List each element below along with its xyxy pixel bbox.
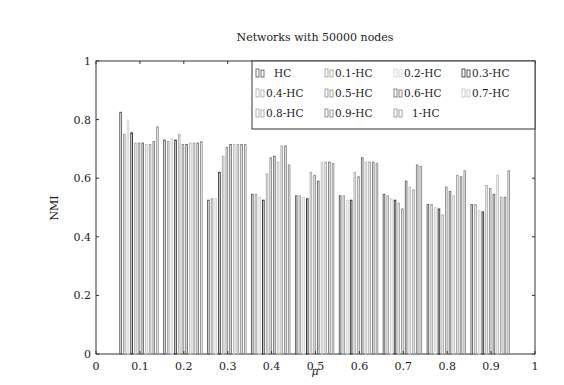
- bar: [303, 197, 305, 354]
- legend-swatch: [325, 89, 328, 97]
- bar: [123, 134, 125, 354]
- bar: [222, 156, 224, 354]
- bar: [241, 145, 243, 354]
- bar: [482, 212, 484, 354]
- legend-swatch: [325, 69, 328, 77]
- bar: [497, 175, 499, 354]
- bar: [266, 174, 268, 354]
- bar: [318, 181, 320, 354]
- bar: [434, 208, 436, 355]
- legend-label: 0.5-HC: [335, 87, 372, 99]
- bar: [153, 142, 155, 354]
- bar: [270, 158, 272, 354]
- bar: [244, 145, 246, 354]
- legend: HC0.1-HC0.2-HC0.3-HC0.4-HC0.5-HC0.6-HC0.…: [252, 61, 535, 129]
- bar: [135, 143, 137, 354]
- bar: [391, 199, 393, 354]
- legend-swatch: [256, 109, 259, 117]
- x-tick-label: 0.6: [351, 360, 369, 373]
- bar: [354, 172, 356, 354]
- bar: [127, 121, 129, 354]
- bar: [230, 145, 232, 354]
- bar: [475, 205, 477, 354]
- legend-label: 0.6-HC: [404, 87, 441, 99]
- nmi-bar-chart: Networks with 50000 nodes 00.20.40.60.81…: [0, 0, 564, 385]
- bar: [457, 175, 459, 354]
- bar: [402, 209, 404, 354]
- bar: [138, 143, 140, 354]
- legend-swatch: [394, 109, 397, 117]
- bar: [413, 190, 415, 354]
- bar: [175, 140, 177, 354]
- bar: [233, 145, 235, 354]
- legend-swatch: [261, 70, 264, 77]
- bar: [471, 205, 473, 354]
- bar: [310, 172, 312, 354]
- bar: [314, 175, 316, 354]
- legend-label: 0.2-HC: [404, 67, 441, 79]
- legend-swatch: [256, 89, 259, 97]
- legend-swatch: [462, 69, 465, 77]
- bar: [201, 142, 203, 354]
- bar: [178, 134, 180, 354]
- legend-swatch: [330, 110, 333, 117]
- bar: [215, 199, 217, 354]
- bar: [427, 205, 429, 354]
- bar: [387, 196, 389, 354]
- bar: [131, 133, 133, 354]
- bar: [372, 162, 374, 354]
- bar: [186, 145, 188, 354]
- bar: [171, 139, 173, 354]
- bar: [383, 194, 385, 354]
- legend-label: 1-HC: [412, 107, 439, 119]
- bar: [189, 143, 191, 354]
- x-tick-label: 1: [532, 360, 539, 373]
- bar: [350, 200, 352, 354]
- bar: [398, 203, 400, 354]
- legend-swatch: [467, 90, 470, 97]
- legend-swatch: [330, 90, 333, 97]
- x-tick-label: 0.9: [482, 360, 500, 373]
- bar: [306, 199, 308, 354]
- x-axis-label: μ: [311, 365, 318, 378]
- bar: [343, 196, 345, 354]
- y-tick-label: 0.6: [74, 172, 92, 185]
- x-tick-label: 0.2: [175, 360, 193, 373]
- legend-swatch: [394, 69, 397, 77]
- legend-label: 0.3-HC: [472, 67, 509, 79]
- y-tick-label: 1: [84, 55, 91, 68]
- bar: [219, 172, 221, 354]
- bar: [365, 162, 367, 354]
- bar: [208, 200, 210, 354]
- bar: [446, 187, 448, 354]
- legend-label: 0.7-HC: [472, 87, 509, 99]
- legend-swatch: [399, 110, 402, 117]
- bar: [332, 164, 334, 354]
- bar: [464, 171, 466, 354]
- bar: [409, 187, 411, 354]
- bar: [263, 200, 265, 354]
- bar: [321, 162, 323, 354]
- bar: [376, 164, 378, 354]
- bar: [299, 196, 301, 354]
- legend-swatch: [325, 109, 328, 117]
- legend-swatch: [399, 70, 402, 77]
- bar: [339, 196, 341, 354]
- bar: [358, 177, 360, 354]
- bar: [489, 188, 491, 354]
- bar: [288, 165, 290, 354]
- x-tick-label: 0.4: [263, 360, 281, 373]
- legend-label: HC: [274, 67, 291, 79]
- bar: [146, 145, 148, 354]
- x-tick-label: 0.1: [131, 360, 149, 373]
- legend-label: 0.4-HC: [266, 87, 303, 99]
- chart-title: Networks with 50000 nodes: [237, 31, 394, 44]
- bar: [325, 162, 327, 354]
- bar: [120, 112, 122, 354]
- bar: [237, 145, 239, 354]
- bar: [259, 197, 261, 354]
- bar: [197, 143, 199, 354]
- legend-swatch: [467, 70, 470, 77]
- legend-swatch: [261, 90, 264, 97]
- legend-swatch: [261, 110, 264, 117]
